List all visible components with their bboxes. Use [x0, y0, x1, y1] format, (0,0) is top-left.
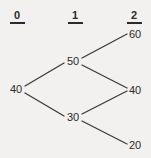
period-header-underline: [10, 22, 25, 24]
period-header-underline: [68, 22, 83, 24]
tree-edge-n1u-to-n2m: [82, 65, 127, 88]
tree-node-n1d: 30: [67, 112, 79, 123]
tree-edge-n0-to-n1u: [25, 63, 64, 86]
period-header-underline: [127, 22, 142, 24]
period-header-label: 0: [6, 9, 28, 21]
tree-edge-n0-to-n1d: [25, 93, 64, 116]
period-header-label: 2: [123, 9, 145, 21]
tree-node-n2d: 20: [129, 140, 141, 151]
period-header-1: 1: [64, 9, 86, 24]
edge-group: [25, 34, 127, 144]
period-header-0: 0: [6, 9, 28, 24]
tree-node-n2m: 40: [129, 85, 141, 96]
tree-edge-n1d-to-n2m: [82, 91, 127, 114]
period-header-label: 1: [64, 9, 86, 21]
tree-node-n0: 40: [10, 84, 22, 95]
tree-node-n2u: 60: [129, 29, 141, 40]
period-header-2: 2: [123, 9, 145, 24]
tree-edge-n1d-to-n2d: [82, 121, 127, 144]
binomial-tree-diagram: 012 405030604020: [0, 0, 151, 158]
tree-edge-n1u-to-n2u: [82, 34, 127, 58]
tree-node-n1u: 50: [67, 56, 79, 67]
